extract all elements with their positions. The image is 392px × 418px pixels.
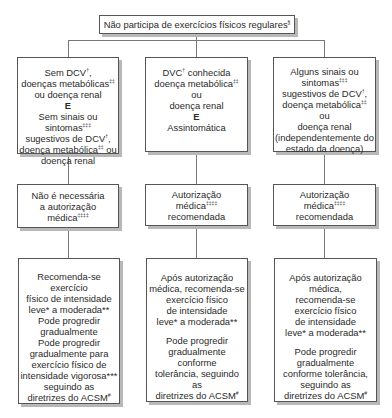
- line-text: exercício físico de: [31, 359, 106, 370]
- line-text: de intensidade: [295, 316, 356, 327]
- node-text-line: exercício: [50, 282, 88, 293]
- node-text-line: Recomenda-se: [37, 271, 101, 282]
- node-text-line: exercício físico: [295, 305, 357, 316]
- footnote-marker: ‡‡‡‡: [334, 200, 345, 206]
- line-text: Autorização: [300, 189, 350, 200]
- footnote-marker: ‡‡‡: [83, 122, 91, 128]
- node-text-line: gradualmente: [297, 357, 354, 368]
- line-text: E: [193, 111, 199, 122]
- line-text: diretrizes do ACSM: [155, 390, 235, 401]
- connector-word-and: E: [65, 100, 71, 111]
- line-text: Autorização: [172, 189, 222, 200]
- line-text: médica: [47, 212, 77, 223]
- line-text: a autorização: [40, 201, 96, 212]
- line-text: doença metabólica: [282, 99, 361, 110]
- root-node-no-regular-exercise: Não participa de exercícios físicos regu…: [99, 15, 295, 34]
- node-text-line: intensidade vigorosa***: [21, 370, 118, 381]
- line-text: médica: [176, 200, 206, 211]
- line-text: doença renal: [169, 100, 223, 111]
- line-text: Pode progredir: [294, 346, 356, 357]
- line-text: médica, recomenda-se: [149, 283, 244, 294]
- node-text-line: doenças metabólicas‡‡: [21, 78, 115, 89]
- node-text-line: DVC† conhecida: [163, 67, 231, 78]
- line-text: (independentemente do: [275, 132, 374, 143]
- recommendation-node-col1: Recomenda-seexercíciofísico de intensida…: [18, 258, 120, 404]
- node-text-line: (independentemente do: [275, 132, 374, 143]
- node-text-line: médica,: [309, 283, 342, 294]
- node-text-line: de intensidade: [167, 305, 228, 316]
- line-text: Pode progredir: [38, 315, 100, 326]
- node-text-line: leve* a moderada**: [29, 304, 110, 315]
- node-text-line: sugestivos de DCV†,: [25, 133, 110, 144]
- node-text-line: Pode progredir: [166, 335, 228, 346]
- node-text-line: leve* a moderada**: [157, 316, 238, 327]
- node-text-line: recomendada: [168, 211, 225, 222]
- line-text-suffix: ou: [104, 144, 117, 155]
- connector-col1-down: [68, 40, 69, 57]
- line-text: Pode progredir: [166, 335, 228, 346]
- line-text: doença renal: [297, 121, 351, 132]
- line-text: ou: [191, 89, 201, 100]
- node-text-line: gradualmente: [168, 346, 225, 357]
- node-text-line: físico de intensidade: [26, 293, 111, 304]
- node-text-line: doença metabólica‡‡ ou: [19, 144, 116, 155]
- recommendation-node-col3: Após autorizaçãomédica,recomenda-seexerc…: [274, 258, 377, 402]
- footnote-marker: ‡‡: [109, 78, 115, 84]
- line-text: gradualmente: [168, 346, 225, 357]
- line-text: sugestivos de DCV: [25, 133, 105, 144]
- footnote-marker: ‡‡: [233, 78, 239, 84]
- line-text: seguindo as: [44, 381, 95, 392]
- node-text-line: ou doença renal: [34, 89, 101, 100]
- node-text-line: exercício físico de: [31, 359, 106, 370]
- footnote-marker: ‡‡‡‡: [78, 212, 89, 218]
- node-text-line: as: [192, 379, 202, 390]
- node-text-line: Após autorização: [161, 272, 233, 283]
- line-text: conforme tolerância,: [283, 368, 368, 379]
- node-text-line: Sem sinais ou: [39, 111, 98, 122]
- line-text-suffix: ,: [108, 133, 111, 144]
- node-text-line: sugestivos de DCV†,: [282, 88, 367, 99]
- node-text-line: médica‡‡‡‡: [47, 212, 88, 223]
- footnote-marker: #: [236, 390, 239, 396]
- condition-node-no-cvd: Sem DCV†,doenças metabólicas‡‡ou doença …: [17, 57, 119, 154]
- line-text: estado da doença): [286, 143, 364, 154]
- node-text-line: Após autorização: [289, 272, 361, 283]
- node-text-line: Pode progredir: [294, 346, 356, 357]
- connector-col3-down: [324, 40, 325, 57]
- line-text: exercício físico: [295, 305, 357, 316]
- line-text-suffix: ,: [364, 88, 367, 99]
- line-text: as: [192, 379, 202, 390]
- line-text: DVC: [163, 67, 183, 78]
- line-text: ou: [319, 110, 329, 121]
- node-text-line: conforme tolerância,: [283, 368, 368, 379]
- line-text: gradualmente: [40, 326, 97, 337]
- node-text-line: Assintomática: [167, 122, 225, 133]
- connector-col2-mid: [196, 152, 197, 184]
- node-text-line: doença metabólica‡‡: [154, 78, 238, 89]
- node-text-line: Não é necessária: [32, 190, 105, 201]
- line-text: ou doença renal: [34, 89, 101, 100]
- line-text: leve* a moderada**: [285, 327, 366, 338]
- line-text: diretrizes do ACSM: [284, 390, 364, 401]
- node-text-line: leve* a moderada**: [285, 327, 366, 338]
- node-text-line: doença renal: [41, 155, 95, 166]
- node-text-line: Sem DCV†,: [44, 67, 91, 78]
- node-text-line: de intensidade: [295, 316, 356, 327]
- line-text: conforme: [177, 357, 216, 368]
- line-text: Não é necessária: [32, 190, 105, 201]
- line-text: físico de intensidade: [26, 293, 111, 304]
- node-text-line: Autorização: [172, 189, 222, 200]
- authorization-node-not-required: Não é necessáriaa autorizaçãomédica‡‡‡‡: [17, 184, 119, 228]
- node-text-line: seguindo as: [300, 379, 351, 390]
- line-text: leve* a moderada**: [157, 316, 238, 327]
- connector-col3-mid: [324, 152, 325, 184]
- line-text: diretrizes do ACSM: [27, 392, 107, 403]
- line-text: recomendada: [296, 211, 353, 222]
- footnote-marker: #: [364, 390, 367, 396]
- line-text: Alguns sinais ou: [290, 66, 358, 77]
- node-text-line: ou: [191, 89, 201, 100]
- node-text-line: Pode progredir: [38, 315, 100, 326]
- node-text-line: Pode progredir: [38, 337, 100, 348]
- line-text: médica: [304, 200, 334, 211]
- node-text-line: recomendada: [296, 211, 353, 222]
